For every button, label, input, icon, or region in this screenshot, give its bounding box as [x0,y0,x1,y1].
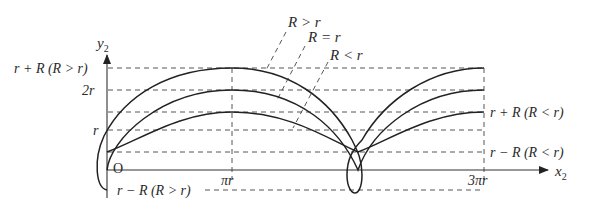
curve-label-R-gt-r: R > r [287,14,321,30]
y-axis-label: y2 [95,35,109,54]
curves [97,68,484,193]
leader-R-lt-r [293,62,328,128]
curve-label-R-lt-r: R < r [329,47,363,63]
origin-label: O [113,161,123,176]
label-r-plus-R-lt: r + R (R < r) [490,105,564,121]
tick-pi-r: πr [221,173,234,188]
label-r-minus-R-lt: r − R (R < r) [490,145,564,161]
label-r-minus-R-gt: r − R (R > r) [117,183,191,199]
trochoid-diagram: y2 x2 O πr 3πr r + R (R > r) 2r r r + R … [0,0,599,210]
leader-R-eq-r [277,46,305,100]
label-r-plus-R-gt: r + R (R > r) [14,61,88,77]
label-2r: 2r [82,83,95,98]
reference-lines [108,32,484,190]
curve-R-lt-r [107,112,484,152]
x-axis-label: x2 [554,163,567,182]
tick-3pi-r: 3πr [467,173,488,188]
leader-R-gt-r [265,32,286,72]
curve-label-R-eq-r: R = r [307,29,341,45]
label-r: r [93,123,99,138]
